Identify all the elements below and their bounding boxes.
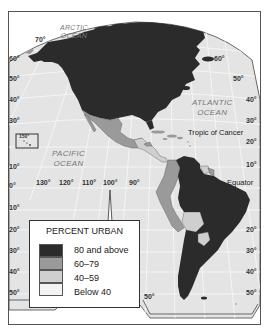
legend-title: PERCENT URBAN [30, 226, 139, 236]
lat-left-40s: 40° [9, 268, 20, 275]
lat-bottom-50-left: 50° [144, 293, 155, 300]
lat-right-50s: 50° [246, 289, 257, 296]
legend-label-60-79: 60–79 [74, 259, 99, 269]
lat-right-40: 40° [246, 96, 257, 103]
lat-left-60: 60° [9, 55, 20, 62]
legend-label-80-above: 80 and above [74, 245, 129, 255]
lat-right-30: 30° [246, 117, 257, 124]
lat-left-50s: 50° [9, 289, 20, 296]
atlantic-ocean-label: ATLANTIC OCEAN [192, 98, 232, 118]
lat-label-70: 70° [35, 36, 46, 43]
lat-left-20s: 20° [9, 226, 20, 233]
lat-left-40: 40° [9, 96, 20, 103]
legend: PERCENT URBAN 80 and above 60–79 40–59 B… [29, 220, 140, 308]
inset-label-150: 150° [19, 133, 29, 139]
lon-label-110: 110° [82, 179, 96, 186]
lat-right-10: 10° [246, 161, 257, 168]
lon-label-120: 120° [59, 179, 73, 186]
legend-swatch-40-59 [39, 270, 63, 283]
equator-label: Equator [227, 178, 253, 187]
lat-left-10n: 10° [9, 163, 20, 170]
legend-label-40-59: 40–59 [74, 273, 99, 283]
legend-swatch-60-79 [39, 257, 63, 270]
pacific-ocean-label: PACIFIC OCEAN [52, 149, 85, 169]
lat-left-10s: 10° [9, 204, 20, 211]
lon-label-100: 100° [103, 179, 117, 186]
tropic-of-cancer-label: Tropic of Cancer [188, 128, 243, 137]
lat-right-20s: 20° [246, 226, 257, 233]
lat-left-0: 0° [9, 182, 16, 189]
lat-right-40s: 40° [246, 268, 257, 275]
lat-left-30: 30° [9, 117, 20, 124]
lat-left-30s: 30° [9, 247, 20, 254]
lat-right-60: 60° [214, 55, 225, 62]
lon-label-130: 130° [36, 179, 50, 186]
lat-right-30s: 30° [246, 247, 257, 254]
lat-right-20: 20° [246, 138, 257, 145]
lat-right-50: 50° [233, 75, 244, 82]
legend-swatch-below-40 [39, 283, 63, 296]
lon-label-90: 90° [129, 179, 140, 186]
arctic-ocean-label: ARCTIC OCEAN [60, 24, 88, 40]
legend-label-below-40: Below 40 [74, 287, 111, 297]
legend-swatch-80-above [39, 244, 63, 257]
lat-left-50: 50° [9, 75, 20, 82]
